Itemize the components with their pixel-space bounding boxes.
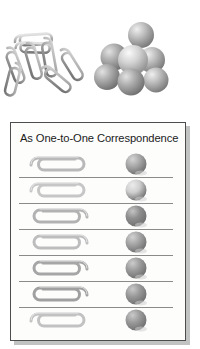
paperclip-icon [23, 284, 95, 306]
paperclip-icon [23, 310, 95, 332]
table-row [19, 256, 179, 282]
table-row [19, 282, 179, 308]
table-row [19, 230, 179, 256]
table-row [19, 152, 179, 178]
card-title: As One-to-One Correspondence [20, 132, 178, 144]
sphere-icon [123, 256, 151, 282]
sphere-icon [123, 230, 151, 256]
sphere-pile-svg [96, 20, 172, 98]
paperclip-icon [23, 232, 95, 254]
table-row [19, 308, 179, 334]
sphere-icon [123, 282, 151, 308]
paperclip-pile-image [8, 12, 94, 102]
correspondence-row-list [19, 152, 179, 334]
paperclip-pile-svg [8, 12, 94, 102]
sphere-icon [123, 178, 151, 204]
paperclip-icon [23, 180, 95, 202]
table-row [19, 178, 179, 204]
table-row [19, 204, 179, 230]
paperclip-icon [23, 206, 95, 228]
sphere-icon [123, 308, 151, 334]
paperclip-icon [23, 154, 95, 176]
sphere-pile-image [96, 20, 172, 98]
top-illustration [0, 0, 200, 118]
sphere-icon [123, 152, 151, 178]
paperclip-icon [23, 258, 95, 280]
sphere-icon [123, 204, 151, 230]
correspondence-card: As One-to-One Correspondence [10, 122, 186, 341]
screenshot-root: As One-to-One Correspondence [0, 0, 200, 349]
